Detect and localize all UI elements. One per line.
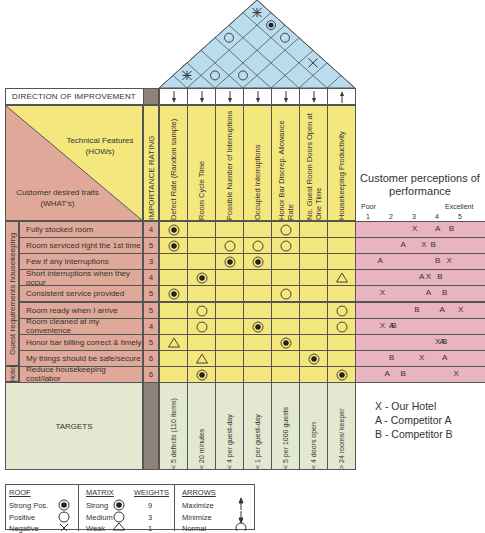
relationship-cell [271, 285, 300, 302]
relationship-cell [159, 366, 188, 383]
relationship-cell [215, 302, 244, 319]
key-our-hotel: X - Our Hotel [375, 399, 453, 413]
medium-relationship-icon [188, 303, 216, 319]
perception-marker-b: B [430, 240, 435, 249]
perception-marker-x: X [421, 240, 426, 249]
perception-row: BAX [355, 302, 485, 319]
tech-feature-header: Possible Number of Interruptions [215, 105, 244, 221]
key-competitor-b: B - Competitor B [375, 427, 453, 441]
minimize-arrow-icon [239, 511, 243, 523]
whats-title: Customer desired traits [10, 187, 105, 198]
perception-marker-b: B [401, 369, 406, 378]
perception-row: ABX [355, 366, 485, 383]
scale-tick: 5 [458, 213, 462, 220]
strong-relationship-icon [244, 319, 272, 335]
perception-marker-x: X [380, 288, 385, 297]
relationship-cell [215, 366, 244, 383]
perception-marker-b: B [437, 272, 442, 281]
relationship-cell [215, 334, 244, 351]
perception-marker-x: X [380, 321, 385, 330]
relationship-cell [187, 318, 216, 335]
perception-marker-b: B [391, 321, 396, 330]
target-value: < 5 defects (110 items) [159, 382, 188, 470]
minimize-arrow-cell [271, 88, 300, 105]
minimize-arrow-cell [187, 88, 216, 105]
relationship-cell [327, 237, 356, 254]
arrow-down-icon [198, 91, 206, 103]
strong-pos-icon [59, 500, 69, 510]
relationship-cell [271, 237, 300, 254]
perceptions-title: Customer perceptions of performance [355, 172, 485, 198]
arrow-up-icon [338, 91, 346, 103]
negative-icon [60, 524, 68, 531]
importance-rating-header: IMPORTANCE RATING [143, 105, 159, 221]
perception-marker-a: A [426, 288, 431, 297]
group-label-hotel: Hotel [5, 366, 19, 382]
minimize-arrow-cell [299, 88, 328, 105]
perception-marker-b: B [442, 337, 447, 346]
whats-label: Customer desired traits (WHAT's) [10, 187, 105, 209]
target-value: > 24 rooms/ keeper [327, 382, 356, 470]
requirement-label: Room cleaned at my convenience [19, 318, 143, 335]
relationship-cell [271, 334, 300, 351]
minimize-arrow-cell [215, 88, 244, 105]
relationship-cell [299, 221, 328, 238]
arrow-down-icon [254, 91, 262, 103]
relationship-cell [187, 285, 216, 302]
strong-relationship-icon [160, 222, 188, 238]
perception-marker-x: X [447, 256, 452, 265]
scale-tick: 3 [412, 213, 416, 220]
relationship-cell [215, 285, 244, 302]
target-value: < 5 per 1000 guests [271, 382, 300, 470]
relationship-cell [215, 350, 244, 367]
minimize-arrow-cell [243, 88, 272, 105]
medium-relationship-icon [244, 238, 272, 254]
relationship-cell [187, 366, 216, 383]
requirement-label: Reduce housekeeping cost/labor [19, 366, 143, 383]
direction-of-improvement-label: DIRECTION OF IMPROVEMENT [5, 88, 143, 105]
importance-value: 4 [143, 269, 159, 286]
importance-value: 5 [143, 285, 159, 302]
medium-relationship-icon [272, 238, 300, 254]
importance-value: 6 [143, 350, 159, 367]
scale-tick: 2 [389, 213, 393, 220]
relationship-cell [243, 221, 272, 238]
perception-row: BXA [355, 350, 485, 367]
perception-marker-x: X [412, 224, 417, 233]
legend: ROOF Strong Pos. Positive Negative MATRI… [5, 484, 255, 530]
weak-relationship-icon [328, 270, 356, 286]
perception-marker-x: X [458, 305, 463, 314]
perceptions-title-line1: Customer perceptions of [355, 172, 485, 185]
importance-value: 5 [143, 237, 159, 254]
tech-feature-header: Honor Bar Discrep. Allowance Rate [271, 105, 300, 221]
relationship-cell [243, 366, 272, 383]
relationship-cell [187, 302, 216, 319]
relationship-cell [299, 285, 328, 302]
target-value: < 4 doors open [299, 382, 328, 470]
tech-feature-header: No. Guest Room Doors Open at One Time [299, 105, 328, 221]
strong-relationship-icon [244, 254, 272, 270]
relationship-cell [327, 221, 356, 238]
perception-marker-a: A [442, 353, 447, 362]
medium-icon [114, 512, 124, 522]
relationship-cell [271, 366, 300, 383]
importance-value: 5 [143, 334, 159, 351]
relationship-cell [243, 302, 272, 319]
relationship-cell [215, 253, 244, 270]
importance-direction-cell [143, 88, 159, 105]
medium-relationship-icon [188, 319, 216, 335]
perception-marker-a: A [419, 272, 424, 281]
perception-row: XAB [355, 221, 485, 238]
tech-feature-header: Room Cycle Time [187, 105, 216, 221]
tech-feature-header: Housekeeping Productivity [327, 105, 356, 221]
weak-relationship-icon [188, 351, 216, 367]
importance-value: 5 [143, 302, 159, 319]
roof-negative-strong-icon [183, 71, 192, 80]
requirement-label: Consistent service provided [19, 285, 143, 302]
whats-sub: (WHAT's) [10, 198, 105, 209]
relationship-cell [271, 221, 300, 238]
perception-marker-a: A [401, 240, 406, 249]
relationship-cell [327, 302, 356, 319]
relationship-cell [299, 237, 328, 254]
relationship-cell [159, 285, 188, 302]
